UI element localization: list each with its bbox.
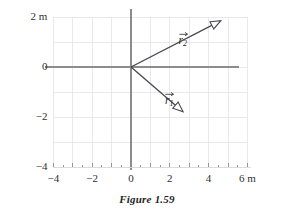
vector-r1	[131, 67, 182, 111]
axis-lines	[45, 9, 251, 170]
vector-arrows	[131, 21, 220, 111]
x-tick-label-3: 2	[150, 173, 190, 184]
x-tick-label-5: 6 m	[227, 173, 267, 184]
vector-arrow-accent-icon	[179, 31, 188, 36]
y-tick-label-3: −4	[5, 161, 47, 172]
x-tick-label-0: −4	[33, 173, 73, 184]
x-tick-label-4: 4	[189, 173, 229, 184]
vector-label-r2-subscript: 2	[183, 39, 187, 48]
vector-r2	[131, 21, 220, 67]
y-tick-label-2: −2	[5, 111, 47, 122]
vector-label-r2: r2	[179, 32, 187, 50]
vector-arrow-accent-icon	[165, 91, 174, 96]
figure-container: −4−20246 m2 m0−2−4 r2 r1 Figure 1.59	[0, 0, 294, 214]
figure-caption: Figure 1.59	[0, 193, 294, 205]
x-tick-label-2: 0	[111, 173, 151, 184]
x-tick-label-1: −2	[72, 173, 112, 184]
y-tick-label-1: 0	[5, 61, 47, 72]
axis-ticks	[53, 163, 247, 167]
y-tick-label-0: 2 m	[5, 11, 47, 22]
vector-label-r1: r1	[165, 92, 173, 110]
grid-lines	[53, 17, 247, 167]
vector-label-r1-subscript: 1	[169, 99, 173, 108]
